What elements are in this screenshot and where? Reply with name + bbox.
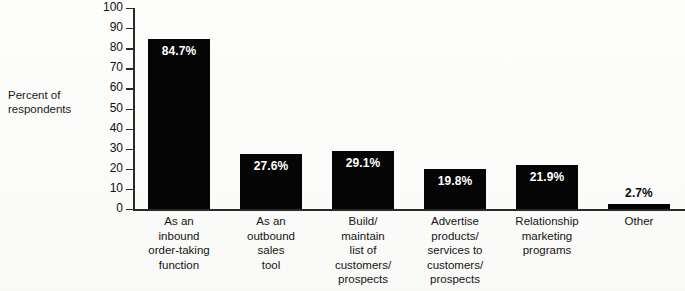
y-tick-label: 20 bbox=[93, 161, 123, 175]
bar-value-label: 27.6% bbox=[240, 159, 302, 173]
x-axis-category-label: As anoutboundsalestool bbox=[225, 214, 317, 272]
y-tick-mark bbox=[126, 189, 133, 190]
bar-value-label: 2.7% bbox=[608, 186, 670, 200]
category-label-line: programs bbox=[501, 243, 593, 258]
category-label-line: prospects bbox=[409, 272, 501, 287]
category-label-line: products/ bbox=[409, 229, 501, 244]
plot-area: 1009080706050403020100 84.7%27.6%29.1%19… bbox=[133, 8, 685, 210]
category-label-line: As an bbox=[225, 214, 317, 229]
category-label-line: sales bbox=[225, 243, 317, 258]
category-label-line: Other bbox=[593, 214, 685, 229]
x-axis-baseline bbox=[133, 209, 685, 211]
y-tick-mark bbox=[126, 209, 133, 210]
category-label-line: outbound bbox=[225, 229, 317, 244]
category-label-line: maintain bbox=[317, 229, 409, 244]
y-tick-mark bbox=[126, 129, 133, 130]
bar[interactable]: 19.8% bbox=[424, 169, 486, 209]
y-tick-label: 60 bbox=[93, 80, 123, 94]
category-label-line: Advertise bbox=[409, 214, 501, 229]
bar[interactable]: 29.1% bbox=[332, 151, 394, 209]
bar-value-label: 84.7% bbox=[148, 44, 210, 58]
category-label-line: services to bbox=[409, 243, 501, 258]
y-tick-mark bbox=[126, 169, 133, 170]
x-axis-category-label: As aninboundorder-takingfunction bbox=[133, 214, 225, 272]
x-axis-category-label: Build/maintainlist ofcustomers/prospects bbox=[317, 214, 409, 287]
bar[interactable]: 21.9% bbox=[516, 165, 578, 209]
y-tick-mark bbox=[126, 28, 133, 29]
x-axis-category-label: Relationshipmarketingprograms bbox=[501, 214, 593, 258]
y-tick-label: 50 bbox=[93, 101, 123, 115]
y-tick-mark bbox=[126, 109, 133, 110]
y-tick-mark bbox=[126, 68, 133, 69]
y-tick-label: 70 bbox=[93, 60, 123, 74]
y-tick-label: 80 bbox=[93, 40, 123, 54]
category-label-line: order-taking bbox=[133, 243, 225, 258]
y-tick-label: 0 bbox=[93, 201, 123, 215]
y-tick-mark bbox=[126, 48, 133, 49]
category-label-line: list of bbox=[317, 243, 409, 258]
y-axis-line bbox=[133, 8, 135, 210]
bar[interactable]: 27.6% bbox=[240, 154, 302, 209]
y-tick-label: 30 bbox=[93, 141, 123, 155]
y-tick-mark bbox=[126, 149, 133, 150]
y-tick-label: 40 bbox=[93, 121, 123, 135]
x-axis-category-label: Other bbox=[593, 214, 685, 229]
bar-chart: Percent of respondents 10090807060504030… bbox=[0, 0, 685, 291]
category-label-line: Relationship bbox=[501, 214, 593, 229]
bar-value-label: 29.1% bbox=[332, 156, 394, 170]
bar[interactable]: 2.7% bbox=[608, 204, 670, 209]
category-label-line: marketing bbox=[501, 229, 593, 244]
category-label-line: Build/ bbox=[317, 214, 409, 229]
x-axis-category-label: Advertiseproducts/services tocustomers/p… bbox=[409, 214, 501, 287]
category-label-line: As an bbox=[133, 214, 225, 229]
category-label-line: customers/ bbox=[317, 258, 409, 273]
category-label-line: prospects bbox=[317, 272, 409, 287]
y-tick-label: 10 bbox=[93, 181, 123, 195]
category-label-line: function bbox=[133, 258, 225, 273]
y-tick-label: 100 bbox=[93, 0, 123, 14]
bar-value-label: 19.8% bbox=[424, 174, 486, 188]
category-label-line: customers/ bbox=[409, 258, 501, 273]
y-tick-mark bbox=[126, 88, 133, 89]
category-label-line: tool bbox=[225, 258, 317, 273]
category-label-line: inbound bbox=[133, 229, 225, 244]
bar[interactable]: 84.7% bbox=[148, 39, 210, 209]
y-tick-mark bbox=[126, 8, 133, 9]
y-tick-label: 90 bbox=[93, 20, 123, 34]
bar-value-label: 21.9% bbox=[516, 170, 578, 184]
